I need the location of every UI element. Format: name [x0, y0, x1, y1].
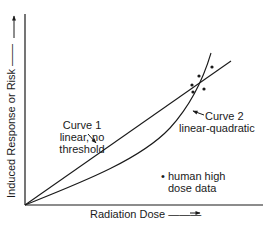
curve-1-desc-1: linear, no — [52, 131, 112, 143]
data-legend-line2: dose data — [161, 182, 225, 194]
curve-2-desc: linear-quadratic — [179, 122, 255, 134]
curve-1-desc-2: threshold — [52, 143, 112, 155]
y-axis-label: Induced Response or Risk —— — [5, 8, 19, 198]
curve-1-title: Curve 1 — [52, 119, 112, 131]
x-axis-label: Radiation Dose ——— — [90, 208, 201, 220]
human-high-dose-data-points — [190, 65, 213, 93]
data-legend: • human high dose data — [161, 170, 225, 194]
curve-1-label: Curve 1 linear, no threshold — [52, 119, 112, 155]
curve-2-label: Curve 2 linear-quadratic — [179, 110, 255, 134]
curve-2-title: Curve 2 — [179, 110, 255, 122]
data-bullet-icon: • — [161, 170, 165, 182]
data-legend-line1: human high — [168, 170, 226, 182]
